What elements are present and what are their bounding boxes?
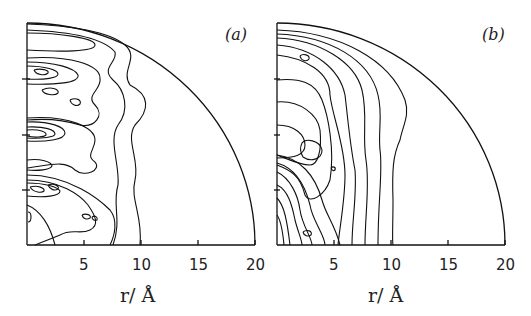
panel-b-x-label: r/ Å: [368, 284, 404, 306]
panel-a-tick-15: 15: [189, 256, 208, 274]
panel-a-tick-5: 5: [79, 256, 89, 274]
panel-a: (a) 5 10 15 20 r/ Å: [22, 23, 265, 306]
panel-b-tick-15: 15: [439, 256, 458, 274]
figure: (a) 5 10 15 20 r/ Å: [0, 0, 531, 316]
panel-b-contours: [277, 30, 407, 245]
panel-b-ticks: [274, 79, 505, 245]
panel-a-tick-20: 20: [246, 256, 265, 274]
panel-a-label: (a): [225, 25, 247, 44]
panel-a-boundary-arc: [27, 23, 255, 245]
panel-a-x-label: r/ Å: [120, 284, 156, 306]
panel-a-tick-10: 10: [132, 256, 151, 274]
panel-a-contours: [27, 24, 146, 245]
panel-b: (b) 5 10 15 20 r/ Å: [274, 23, 515, 306]
panel-b-tick-20: 20: [496, 256, 515, 274]
panel-b-tick-10: 10: [382, 256, 401, 274]
panel-b-label: (b): [482, 25, 505, 44]
panel-b-tick-5: 5: [329, 256, 339, 274]
